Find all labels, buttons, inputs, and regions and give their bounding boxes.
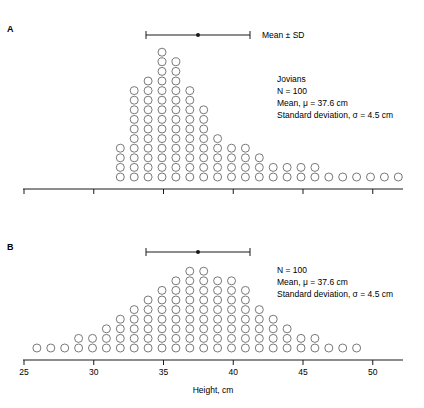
info-block-a: Jovians N = 100 Mean, μ = 37.6 cm Standa… <box>277 74 393 120</box>
data-point <box>102 344 110 352</box>
data-point <box>311 173 319 181</box>
data-point <box>130 135 138 143</box>
data-point <box>214 277 222 285</box>
data-point <box>297 344 305 352</box>
data-point <box>158 306 166 314</box>
data-point <box>214 306 222 314</box>
data-point <box>200 144 208 152</box>
data-point <box>241 315 249 323</box>
data-point <box>61 344 69 352</box>
data-point <box>186 315 194 323</box>
mean-sd-bar-a <box>146 31 250 39</box>
data-point <box>228 306 236 314</box>
data-point <box>172 144 180 152</box>
data-point <box>186 286 194 294</box>
data-point <box>214 286 222 294</box>
data-point <box>255 173 263 181</box>
data-point <box>47 344 55 352</box>
data-point <box>200 315 208 323</box>
data-point <box>283 325 291 333</box>
data-point <box>172 96 180 104</box>
data-point <box>144 163 152 171</box>
data-point <box>172 67 180 75</box>
data-point <box>186 306 194 314</box>
data-point <box>186 115 194 123</box>
data-point <box>172 115 180 123</box>
data-point <box>144 106 152 114</box>
data-point <box>283 334 291 342</box>
data-point <box>186 144 194 152</box>
data-point <box>144 306 152 314</box>
data-point <box>130 315 138 323</box>
data-point <box>158 286 166 294</box>
data-point <box>116 173 124 181</box>
data-point <box>200 115 208 123</box>
data-point <box>130 144 138 152</box>
data-point <box>214 344 222 352</box>
mean-sd-bar-b <box>146 248 250 256</box>
data-point <box>241 163 249 171</box>
legend-mean-sd: Mean ± SD <box>262 30 304 40</box>
data-point <box>255 163 263 171</box>
data-point <box>116 334 124 342</box>
data-point <box>200 296 208 304</box>
data-point <box>172 154 180 162</box>
data-point <box>214 144 222 152</box>
data-point <box>158 144 166 152</box>
data-point <box>158 96 166 104</box>
data-point <box>283 163 291 171</box>
data-point <box>214 135 222 143</box>
data-point <box>172 125 180 133</box>
data-point <box>158 325 166 333</box>
data-point <box>228 154 236 162</box>
data-point <box>186 296 194 304</box>
data-point <box>200 325 208 333</box>
x-tick-label: 30 <box>89 367 99 377</box>
mean-marker-b <box>196 250 200 254</box>
data-point <box>130 306 138 314</box>
data-point <box>116 344 124 352</box>
data-point <box>269 334 277 342</box>
info-b-line-1: Mean, μ = 37.6 cm <box>277 277 348 287</box>
data-point <box>102 334 110 342</box>
data-point <box>214 163 222 171</box>
data-point <box>228 286 236 294</box>
data-point <box>158 344 166 352</box>
chart: A Mean ± SD Jovians N = 100 Mean, μ = 37… <box>0 0 424 408</box>
data-point <box>186 267 194 275</box>
data-point <box>241 306 249 314</box>
info-a-line-1: N = 100 <box>277 86 307 96</box>
data-point <box>228 173 236 181</box>
data-point <box>283 173 291 181</box>
data-point <box>228 325 236 333</box>
data-point <box>158 125 166 133</box>
info-b-line-2: Standard deviation, σ = 4.5 cm <box>277 289 393 299</box>
data-point <box>130 125 138 133</box>
data-point <box>158 58 166 66</box>
data-point <box>186 173 194 181</box>
data-point <box>130 325 138 333</box>
data-point <box>172 315 180 323</box>
data-point <box>255 306 263 314</box>
data-point <box>144 144 152 152</box>
data-point <box>172 286 180 294</box>
data-point <box>186 96 194 104</box>
panel-a: A Mean ± SD Jovians N = 100 Mean, μ = 37… <box>7 24 403 194</box>
data-point <box>297 173 305 181</box>
data-point <box>172 325 180 333</box>
x-tick-label: 45 <box>298 367 308 377</box>
data-point <box>269 315 277 323</box>
data-point <box>255 154 263 162</box>
data-point <box>158 67 166 75</box>
data-point <box>172 296 180 304</box>
data-point <box>144 77 152 85</box>
data-point <box>200 267 208 275</box>
data-point <box>200 135 208 143</box>
data-point <box>172 334 180 342</box>
data-point <box>116 163 124 171</box>
data-point <box>130 87 138 95</box>
data-point <box>269 325 277 333</box>
data-point <box>367 173 375 181</box>
data-point <box>200 173 208 181</box>
data-point <box>228 334 236 342</box>
